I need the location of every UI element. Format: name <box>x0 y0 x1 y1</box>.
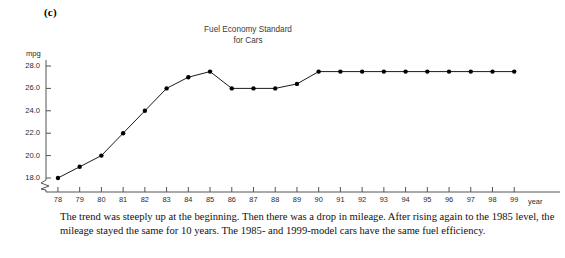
y-axis-tick-label: 18.0 <box>12 173 40 182</box>
data-point-marker <box>295 82 299 86</box>
data-series-group <box>56 69 517 180</box>
x-axis-tick-label: 98 <box>482 195 502 204</box>
y-axis-break-mark <box>41 180 49 190</box>
data-point-marker <box>512 69 516 73</box>
x-axis-tick-label: 97 <box>461 195 481 204</box>
data-point-marker <box>447 69 451 73</box>
y-axis-tick-label: 20.0 <box>12 151 40 160</box>
axes-group <box>41 60 560 192</box>
line-chart-plot-area: mpg year 18.020.022.024.026.028.07879808… <box>0 0 565 210</box>
x-axis-tick-label: 93 <box>374 195 394 204</box>
data-point-marker <box>469 69 473 73</box>
x-axis-tick-label: 80 <box>91 195 111 204</box>
data-point-marker <box>273 86 277 90</box>
x-axis-tick-label: 81 <box>113 195 133 204</box>
y-axis-tick-label: 24.0 <box>12 106 40 115</box>
data-point-marker <box>251 86 255 90</box>
y-axis-tick-label: 28.0 <box>12 61 40 70</box>
data-point-marker <box>143 109 147 113</box>
x-axis-tick-label: 92 <box>352 195 372 204</box>
x-axis-tick-label: 91 <box>330 195 350 204</box>
x-axis-tick-label: 99 <box>504 195 524 204</box>
y-axis-tick-label: 22.0 <box>12 128 40 137</box>
x-axis-tick-label: 90 <box>309 195 329 204</box>
y-axis-tick-label: 26.0 <box>12 83 40 92</box>
x-axis-tick-label: 88 <box>265 195 285 204</box>
x-axis-tick-label: 84 <box>178 195 198 204</box>
chart-canvas <box>0 0 565 210</box>
data-point-marker <box>360 69 364 73</box>
data-point-marker <box>77 165 81 169</box>
data-point-marker <box>382 69 386 73</box>
series-line <box>58 72 514 178</box>
data-point-marker <box>316 69 320 73</box>
data-point-marker <box>56 176 60 180</box>
x-axis-tick-label: 94 <box>396 195 416 204</box>
x-axis-tick-label: 82 <box>135 195 155 204</box>
x-axis-tick-label: 87 <box>243 195 263 204</box>
data-point-marker <box>164 86 168 90</box>
x-axis-tick-label: 95 <box>417 195 437 204</box>
x-axis-tick-label: 96 <box>439 195 459 204</box>
x-axis-tick-label: 79 <box>70 195 90 204</box>
data-point-marker <box>403 69 407 73</box>
data-point-marker <box>425 69 429 73</box>
data-point-marker <box>490 69 494 73</box>
x-axis-tick-label: 83 <box>157 195 177 204</box>
data-point-marker <box>121 131 125 135</box>
data-point-marker <box>186 75 190 79</box>
y-axis-title: mpg <box>26 49 41 58</box>
data-point-marker <box>208 69 212 73</box>
data-point-marker <box>338 69 342 73</box>
x-axis-tick-label: 86 <box>222 195 242 204</box>
x-axis-tick-label: 85 <box>200 195 220 204</box>
x-axis-tick-label: 89 <box>287 195 307 204</box>
figure-caption: The trend was steeply up at the beginnin… <box>60 210 560 238</box>
data-point-marker <box>230 86 234 90</box>
x-axis-tick-label: 78 <box>48 195 68 204</box>
x-axis-title: year <box>528 197 542 206</box>
data-point-marker <box>99 153 103 157</box>
